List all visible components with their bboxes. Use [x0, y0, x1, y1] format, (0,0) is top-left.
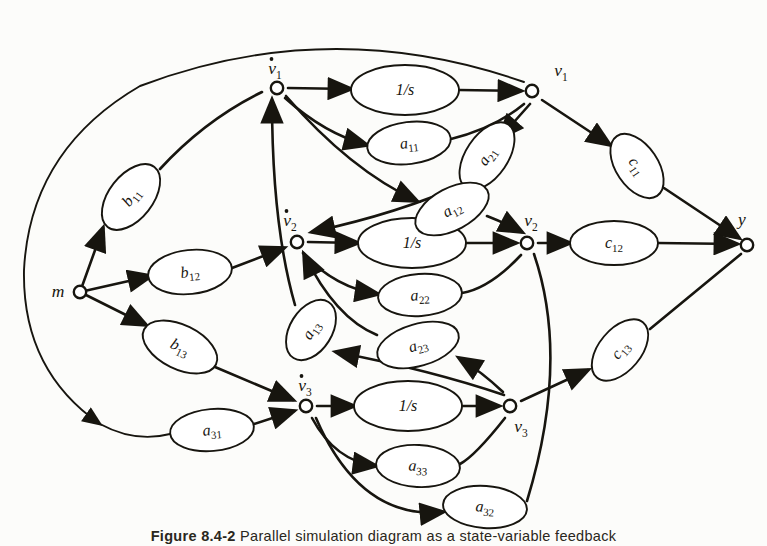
node-v2-marker: [521, 237, 533, 249]
edges-layer: [24, 49, 741, 513]
caption-text: Parallel simulation diagram as a state-v…: [240, 528, 616, 544]
node-m-label: m: [52, 281, 65, 301]
edge-a33-to-v3dot: [312, 418, 376, 466]
node-v3-label: v3: [514, 416, 528, 439]
edge-int1-to-v1: [459, 90, 521, 91]
node-v1: v1: [526, 60, 568, 97]
node-v2-label: v2: [524, 210, 538, 233]
node-v3-marker: [504, 400, 516, 412]
gain-integrator-3-label: 1/s: [399, 397, 418, 414]
gain-b12: b12: [146, 246, 234, 299]
edge-b11-to-v1dot: [160, 92, 262, 169]
node-v1-marker: [526, 85, 538, 97]
edge-b12-to-v2dot: [232, 248, 284, 268]
node-y: y: [736, 209, 753, 251]
gain-a31: a31: [168, 405, 255, 454]
node-v1-dot-derivative-dot: [270, 57, 274, 61]
gain-a33: a33: [375, 443, 461, 489]
edge-v3-to-a33: [460, 418, 505, 464]
gain-integrator-1: 1/s: [351, 65, 459, 115]
figure-signal-flow-graph: 1/s1/s1/sb11b12b13a11a21a12a22a13a23a31a…: [0, 0, 767, 546]
edge-a13-to-v1dot: [272, 100, 295, 305]
node-v3-dot-marker: [300, 400, 312, 412]
node-y-label: y: [736, 209, 746, 229]
edge-m-to-b12: [80, 276, 151, 292]
edge-v3-to-c13: [521, 370, 588, 401]
gain-c13: c13: [581, 309, 659, 391]
edge-m-to-b11: [80, 228, 103, 292]
edge-c12-to-y: [658, 243, 737, 244]
edge-v2-to-a22: [462, 255, 521, 293]
node-v3-dot-derivative-dot: [300, 374, 304, 378]
edge-v2-to-a12: [487, 216, 522, 232]
node-v2-dot-marker: [291, 236, 303, 248]
node-v2-dot-label: v2: [283, 210, 297, 233]
node-v1-dot-label: v1: [268, 58, 282, 81]
gain-a22: a22: [377, 271, 464, 319]
node-y-marker: [741, 239, 753, 251]
node-v1-dot-marker: [271, 82, 283, 94]
node-v1-dot: v1: [268, 57, 283, 94]
caption-number: 8.4-2: [201, 528, 236, 544]
edge-m-to-b13: [80, 292, 146, 325]
node-v3-dot: v3: [298, 374, 312, 412]
gain-integrator-1-label: 1/s: [396, 81, 415, 98]
edge-c11-to-y: [664, 188, 739, 238]
node-v3: v3: [504, 400, 528, 439]
signal-flow-graph-canvas: 1/s1/s1/sb11b12b13a11a21a12a22a13a23a31a…: [0, 0, 767, 546]
node-v3-dot-label: v3: [298, 375, 312, 398]
edge-b13-to-v3dot: [215, 367, 293, 400]
edge-v1-to-c11: [542, 100, 610, 145]
edge-c13-to-y: [650, 254, 741, 329]
gain-c11: c11: [599, 124, 674, 207]
figure-caption: Figure 8.4-2 Parallel simulation diagram…: [0, 528, 767, 544]
gain-integrator-3: 1/s: [354, 381, 462, 431]
edge-v2-to-a32: [527, 254, 550, 501]
edge-v2dot-to-int2: [308, 242, 358, 243]
edge-outer-arc-to-a31: [100, 424, 170, 437]
node-v2-dot-derivative-dot: [285, 209, 289, 213]
gain-a32: a32: [442, 483, 529, 531]
gain-c12: c12: [570, 221, 658, 265]
gain-integrator-2-label: 1/s: [403, 234, 422, 251]
edge-v1dot-to-int1: [288, 88, 351, 89]
node-m: m: [52, 281, 87, 301]
edge-a31-to-v3dot: [254, 411, 294, 424]
node-v1-label: v1: [554, 60, 568, 83]
node-v2-dot: v2: [283, 209, 303, 248]
gain-ellipses-layer: 1/s1/s1/sb11b12b13a11a21a12a22a13a23a31a…: [90, 65, 674, 531]
caption-prefix: Figure: [151, 528, 197, 544]
gain-a11: a11: [365, 117, 453, 169]
node-v2: v2: [521, 210, 538, 249]
gain-a23: a23: [372, 313, 464, 377]
gain-b13: b13: [134, 310, 225, 385]
node-m-marker: [74, 286, 86, 298]
